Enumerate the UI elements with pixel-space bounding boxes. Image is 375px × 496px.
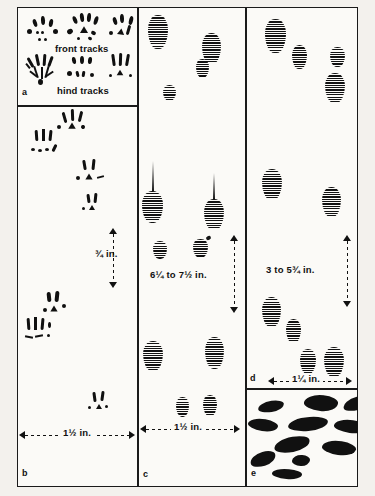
panel-b: ¾ in. 1½ in. b xyxy=(17,106,137,487)
dimension-c-horizontal-label: 1½ in. xyxy=(171,421,205,432)
scat-pellet xyxy=(321,438,357,457)
track-oval xyxy=(262,297,281,327)
track-oval xyxy=(262,169,282,200)
scat-pellet xyxy=(333,418,358,435)
dimension-d-vertical-label: 3 to 5¾ in. xyxy=(266,264,315,275)
scat-pellet xyxy=(272,467,303,480)
scat-pellet xyxy=(249,449,278,470)
panel-b-label: b xyxy=(22,468,28,478)
track-oval xyxy=(265,19,286,53)
panel-e-label: e xyxy=(251,468,256,478)
track-oval xyxy=(204,199,224,230)
panel-c-label: c xyxy=(143,469,148,479)
scat-pellet xyxy=(303,393,338,412)
dimension-c-vertical-label: 6¼ to 7½ in. xyxy=(150,269,207,280)
caption-hind-tracks: hind tracks xyxy=(57,85,109,96)
track-oval xyxy=(286,319,301,343)
caption-front-tracks: front tracks xyxy=(55,43,108,54)
panel-a: front tracks xyxy=(17,7,137,105)
track-oval xyxy=(142,191,163,223)
scat-pellet xyxy=(288,416,329,433)
track-oval xyxy=(203,395,217,416)
track-oval xyxy=(176,397,189,417)
scat-pellet xyxy=(247,416,279,433)
panel-d: 3 to 5¾ in. 1¼ in. d xyxy=(246,7,358,388)
figure-plate: front tracks xyxy=(0,0,375,496)
track-oval xyxy=(153,241,167,259)
scat-pellet xyxy=(257,399,284,414)
panel-c: 6¼ to 7½ in. 1½ in. c xyxy=(138,7,245,487)
track-oval xyxy=(143,341,163,371)
track-oval xyxy=(292,45,307,69)
track-oval xyxy=(163,85,176,101)
dimension-c-vertical-arrow xyxy=(230,235,239,313)
dimension-b-vertical-label: ¾ in. xyxy=(95,248,118,259)
scat-pellet xyxy=(342,394,358,413)
track-oval xyxy=(300,349,316,374)
panel-a-label: a xyxy=(22,87,27,97)
track-oval xyxy=(324,347,344,377)
track-oval xyxy=(196,59,209,78)
dimension-b-horizontal-label: 1½ in. xyxy=(59,427,95,438)
scat-pellet xyxy=(273,434,311,455)
track-oval xyxy=(205,337,224,369)
track-oval xyxy=(193,239,208,258)
panel-d-label: d xyxy=(250,373,256,383)
panel-e: e xyxy=(246,389,358,487)
track-oval xyxy=(148,15,168,49)
track-oval xyxy=(325,73,345,103)
scat-pellet xyxy=(292,454,311,466)
track-oval xyxy=(330,47,345,67)
dimension-d-horizontal-label: 1¼ in. xyxy=(289,373,323,384)
dimension-d-vertical-arrow xyxy=(343,235,352,307)
track-oval xyxy=(322,187,341,217)
